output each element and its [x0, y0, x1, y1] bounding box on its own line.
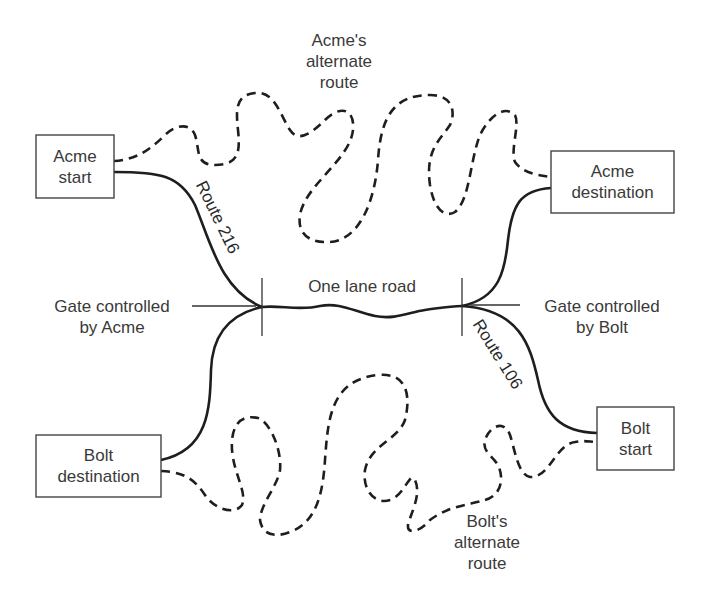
one-lane-road — [262, 305, 462, 317]
acme-destination-road — [462, 188, 551, 306]
bolt-alt-line2: alternate — [432, 532, 542, 553]
acme-alt-line1: Acme's — [284, 30, 394, 51]
bolt-start-line1: Bolt — [619, 418, 652, 439]
acme-start-label: Acmestart — [36, 135, 114, 198]
gate-bolt-label: Gate controlled by Bolt — [526, 296, 678, 338]
gate-acme-line1: Gate controlled — [36, 296, 188, 317]
gate-acme-line2: by Acme — [36, 317, 188, 338]
acme-alt-line2: alternate — [284, 51, 394, 72]
bolt-alt-line3: route — [432, 553, 542, 574]
bolt-alt-line1: Bolt's — [432, 511, 542, 532]
bolt-alternate-route-label: Bolt's alternate route — [432, 511, 542, 574]
acme-alternate-route-label: Acme's alternate route — [284, 30, 394, 93]
bolt-start-label: Boltstart — [597, 407, 674, 470]
bolt-destination-line2: destination — [57, 466, 139, 487]
bolt-destination-label: Boltdestination — [36, 435, 161, 497]
acme-destination-line1: Acme — [571, 161, 653, 182]
acme-destination-label: Acmedestination — [551, 151, 674, 213]
acme-alternate-route — [114, 93, 551, 242]
gate-bolt-line1: Gate controlled — [526, 296, 678, 317]
acme-alt-line3: route — [284, 72, 394, 93]
gate-bolt-line2: by Bolt — [526, 317, 678, 338]
one-lane-road-label: One lane road — [292, 276, 432, 297]
acme-destination-line2: destination — [571, 182, 653, 203]
acme-start-line2: start — [53, 167, 96, 188]
acme-start-line1: Acme — [53, 146, 96, 167]
bolt-start-line2: start — [619, 439, 652, 460]
gate-acme-label: Gate controlled by Acme — [36, 296, 188, 338]
bolt-destination-line1: Bolt — [57, 445, 139, 466]
route-216-road — [114, 172, 262, 307]
